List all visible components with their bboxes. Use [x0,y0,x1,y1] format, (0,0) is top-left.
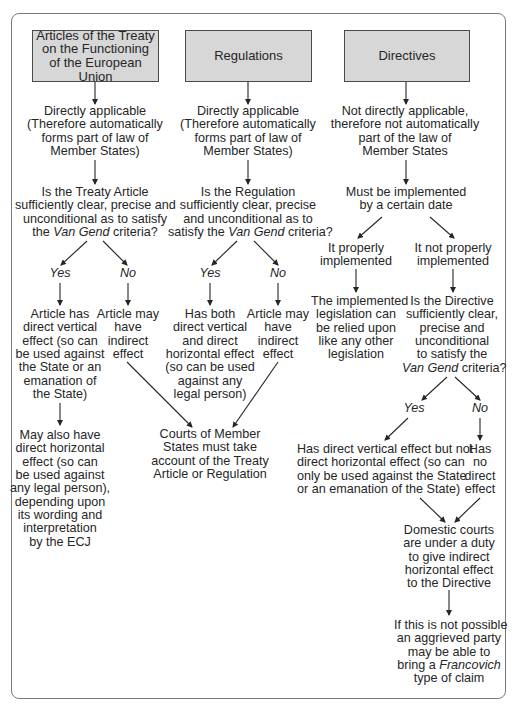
arrow-icon [430,217,454,238]
arrow-icon [420,498,445,522]
arrow-icon [422,377,447,400]
arrow-icon [455,498,480,522]
arrow-icon [103,241,127,265]
arrow-icon [455,377,480,400]
arrow-icon [358,217,382,238]
arrow-icon [254,241,278,265]
arrow-icon [385,418,408,440]
arrow-icon [127,362,192,427]
arrow-icon [61,241,87,265]
arrow-icon [212,241,237,265]
flow-arrows [0,0,514,707]
arrow-icon [233,362,278,427]
